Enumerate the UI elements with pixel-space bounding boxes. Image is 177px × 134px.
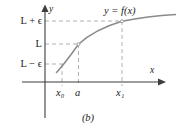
x-axis-name: x [150,66,154,76]
curve-equation-label: y = f(x) [104,6,136,17]
y-axis [41,5,48,119]
x-axis-arrowhead [158,78,166,85]
y-tick-label-l: L [36,39,42,50]
figure-container: L + ϵ L L − ϵ x₀ a x₁ y x y = f(x) (b) [0,0,176,134]
figure-caption-text: (b) [82,112,94,123]
curve-equation-text: y = f(x) [104,5,136,16]
x-axis [22,78,166,85]
y-tick-label-l-plus-epsilon: L + ϵ [21,16,42,27]
x-axis-name-text: x [150,65,154,75]
x-tick-x1-text: x₁ [116,87,124,98]
x-tick-x0-text: x₀ [56,87,64,98]
x-tick-a-text: a [75,87,80,98]
y-axis-name-text: y [49,4,53,14]
y-tick-label-l-minus-epsilon: L − ϵ [21,59,42,70]
y-axis-arrowhead [41,5,48,13]
y-tick-l-plus-epsilon-text: L + ϵ [21,15,42,26]
y-tick-l-text: L [36,38,42,49]
point-x1-l-plus-epsilon [121,20,124,23]
x-tick-label-a: a [75,88,80,99]
y-axis-name: y [49,5,53,15]
x-tick-label-x1: x₁ [116,88,124,99]
point-a-l [77,43,80,46]
figure-caption: (b) [0,113,176,124]
dashed-reference-lines [45,21,122,86]
function-curve [57,14,177,72]
y-tick-l-minus-epsilon-text: L − ϵ [21,58,42,69]
x-tick-label-x0: x₀ [56,88,64,99]
